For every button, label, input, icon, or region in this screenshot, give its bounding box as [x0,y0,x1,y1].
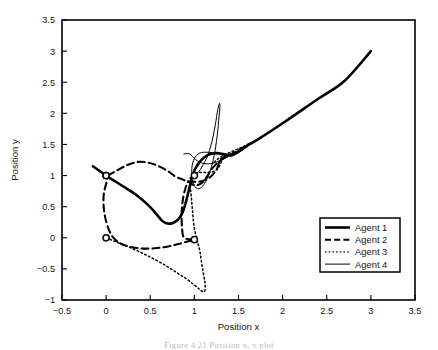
x-tick-label: 0.5 [144,306,157,316]
legend: Agent 1Agent 2Agent 3Agent 4 [320,218,400,272]
marker-agent-4-start [191,172,197,178]
y-tick-label: 2 [50,109,55,119]
y-axis-title: Position y [9,139,20,181]
x-tick-label: 1 [192,306,197,316]
legend-label-3: Agent 3 [355,246,387,257]
y-tick-label: −1 [45,295,55,305]
x-tick-label: −0.5 [53,306,71,316]
series-line-agent-1 [93,51,371,223]
series-line-agent-2 [103,146,247,249]
position-xy-plot: −0.500.511.522.533.5−1−0.500.511.522.533… [0,0,438,350]
marker-agent-2-waypoint [191,237,197,243]
y-tick-label: −0.5 [37,264,55,274]
x-tick-label: 2.5 [320,306,333,316]
figure-caption: Figure 4.21 Position x, y plot [0,340,438,349]
legend-label-2: Agent 2 [355,234,387,245]
y-tick-label: 2.5 [42,78,55,88]
legend-label-1: Agent 1 [355,222,387,233]
x-tick-label: 2 [280,306,285,316]
x-axis-title: Position x [218,321,260,332]
x-tick-label: 3 [368,306,373,316]
legend-label-4: Agent 4 [355,259,387,270]
y-tick-label: 0 [50,233,55,243]
x-tick-label: 0 [104,306,109,316]
y-tick-label: 3 [50,47,55,57]
y-tick-label: 3.5 [42,15,55,25]
marker-agent-2-start [103,172,109,178]
y-tick-label: 1.5 [42,140,55,150]
y-tick-label: 0.5 [42,202,55,212]
x-tick-label: 1.5 [232,306,245,316]
marker-agent-3-start [103,235,109,241]
figure-container: −0.500.511.522.533.5−1−0.500.511.522.533… [0,0,438,350]
y-tick-label: 1 [50,171,55,181]
x-tick-label: 3.5 [409,306,422,316]
